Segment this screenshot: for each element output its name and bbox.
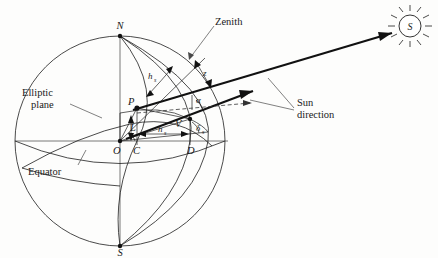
solar-geometry-diagram: S N S O P C D V L α z h s h s δ s Zenith…: [0, 0, 438, 258]
sun-symbol: S: [388, 5, 432, 47]
label-sun-direction-line2: direction: [297, 109, 335, 120]
zenith-leader: [190, 26, 214, 58]
sun-direction-leader-upper: [268, 78, 294, 108]
label-hour-angle-linear-sub: s: [164, 130, 167, 136]
elliptic-plane-leader: [70, 104, 102, 118]
label-elliptic-plane-line1: Elliptic: [22, 87, 53, 98]
label-zenith: Zenith: [215, 16, 243, 27]
label-hour-angle-arc: h: [148, 71, 153, 81]
hs-linear-arrow-right: [181, 131, 189, 137]
label-zenith-angle: z: [202, 68, 207, 78]
point-marker-n: [118, 34, 122, 38]
label-south-pole: S: [117, 247, 123, 258]
point-marker-v: [188, 117, 192, 121]
sun-letter-label: S: [408, 21, 413, 32]
label-declination-sub: s: [202, 129, 205, 135]
horizon-projection-arrowhead: [243, 100, 252, 106]
label-north-pole: N: [115, 20, 124, 31]
label-altitude-angle: α: [196, 95, 201, 105]
point-marker-p: [134, 105, 139, 110]
label-latitude: L: [129, 122, 136, 133]
label-center-o: O: [113, 145, 121, 156]
sun-direction-leader-lower: [250, 100, 294, 110]
diagram-canvas: S N S O P C D V L α z h s h s δ s Zenith…: [0, 0, 438, 258]
label-equator: Equator: [28, 166, 62, 177]
label-elliptic-plane-line2: plane: [31, 99, 54, 110]
zenith-angle-arrow-upper: [194, 60, 201, 69]
equator-leader: [78, 150, 86, 165]
label-point-v: V: [175, 118, 183, 129]
label-hour-angle-arc-group: h s: [148, 71, 157, 83]
label-point-c: C: [133, 145, 141, 156]
label-hour-angle-arc-sub: s: [154, 77, 157, 83]
label-sun-direction-line1: Sun: [297, 97, 314, 108]
label-point-p: P: [127, 96, 135, 107]
point-marker-o: [118, 139, 122, 143]
zenith-leader-arrow: [188, 52, 194, 60]
label-point-d: D: [186, 145, 195, 156]
label-hour-angle-linear: h: [158, 124, 163, 134]
sun-ray-arrowhead: [378, 32, 392, 41]
sun-ray-v-arrowhead: [239, 90, 253, 99]
